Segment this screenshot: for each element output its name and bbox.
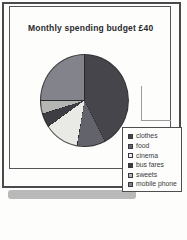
legend-swatch-cinema <box>128 153 133 158</box>
legend-item-sweets: sweets <box>128 170 179 180</box>
legend-item-mobile-phone: mobile phone <box>128 180 179 190</box>
legend-label: bus fares <box>136 162 164 169</box>
legend-label: sweets <box>136 172 157 179</box>
legend-item-food: food <box>128 142 179 152</box>
legend-item-clothes: clothes <box>128 132 179 142</box>
pie-chart <box>40 54 129 147</box>
legend-item-bus-fares: bus fares <box>128 161 179 171</box>
legend-swatch-mobile-phone <box>128 182 133 187</box>
legend-swatch-bus-fares <box>128 163 133 168</box>
chart-title: Monthly spending budget £40 <box>28 23 178 33</box>
legend-swatch-sweets <box>128 173 133 178</box>
legend-item-cinema: cinema <box>128 151 179 161</box>
legend-label: food <box>136 143 149 150</box>
chart-legend: clothesfoodcinemabus faressweetsmobile p… <box>122 127 182 192</box>
legend-label: clothes <box>136 133 158 140</box>
legend-swatch-food <box>128 144 133 149</box>
legend-swatch-clothes <box>128 134 133 139</box>
scan-line-vertical <box>141 86 142 121</box>
scan-line-horizontal <box>141 120 171 121</box>
scan-shadow <box>8 190 136 199</box>
legend-label: mobile phone <box>136 181 177 188</box>
legend-label: cinema <box>136 153 158 160</box>
